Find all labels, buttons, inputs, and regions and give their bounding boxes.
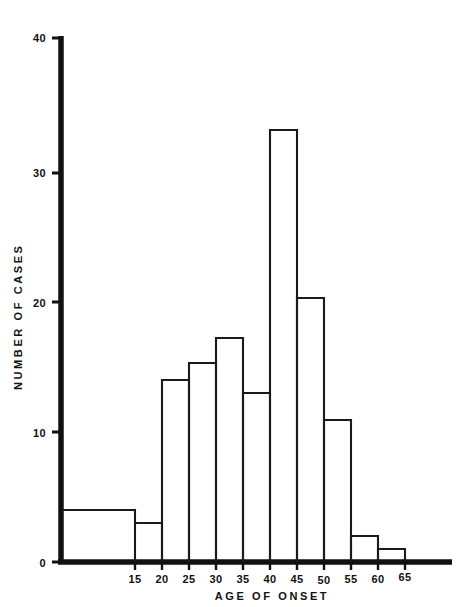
x-axis-tick-labels: 15 20 25 30 35 40 45 50 55 60 65	[128, 571, 411, 586]
histogram-bars	[62, 130, 405, 562]
bar-bin-40-45	[270, 130, 297, 562]
x-tick-label-15: 15	[128, 573, 141, 585]
histogram-figure: 40 30 20 10 0	[0, 0, 458, 607]
bar-bin-30-35	[216, 338, 243, 562]
x-tick-label-60: 60	[371, 573, 384, 585]
bar-bin-55-60	[351, 536, 378, 562]
y-tick-label-0: 0	[39, 557, 46, 569]
bar-bin-35-40	[243, 393, 270, 562]
x-tick-label-65: 65	[398, 571, 411, 583]
bar-bin-45-50	[297, 298, 324, 562]
x-tick-label-30: 30	[209, 573, 222, 585]
y-axis-title: NUMBER OF CASES	[12, 243, 24, 390]
x-tick-label-20: 20	[155, 573, 168, 585]
chart-canvas: 40 30 20 10 0	[0, 0, 458, 607]
x-tick-label-50: 50	[317, 574, 330, 586]
y-tick-label-10: 10	[33, 427, 46, 439]
x-tick-label-55: 55	[344, 573, 357, 585]
bar-bin-20-25	[162, 380, 189, 562]
y-axis-tick-labels: 40 30 20 10 0	[33, 32, 46, 569]
x-tick-label-45: 45	[290, 573, 303, 585]
y-tick-label-20: 20	[33, 297, 46, 309]
bar-bin-50-55	[324, 420, 351, 562]
y-tick-label-30: 30	[33, 167, 46, 179]
x-tick-label-25: 25	[182, 573, 195, 585]
bar-bin-5-15	[62, 510, 135, 561]
x-tick-label-35: 35	[236, 573, 249, 585]
bar-bin-15-20	[135, 523, 162, 561]
bar-bin-25-30	[189, 363, 216, 562]
y-tick-label-40: 40	[33, 32, 46, 44]
x-axis-title: AGE OF ONSET	[215, 590, 329, 602]
x-tick-label-40: 40	[263, 573, 276, 585]
